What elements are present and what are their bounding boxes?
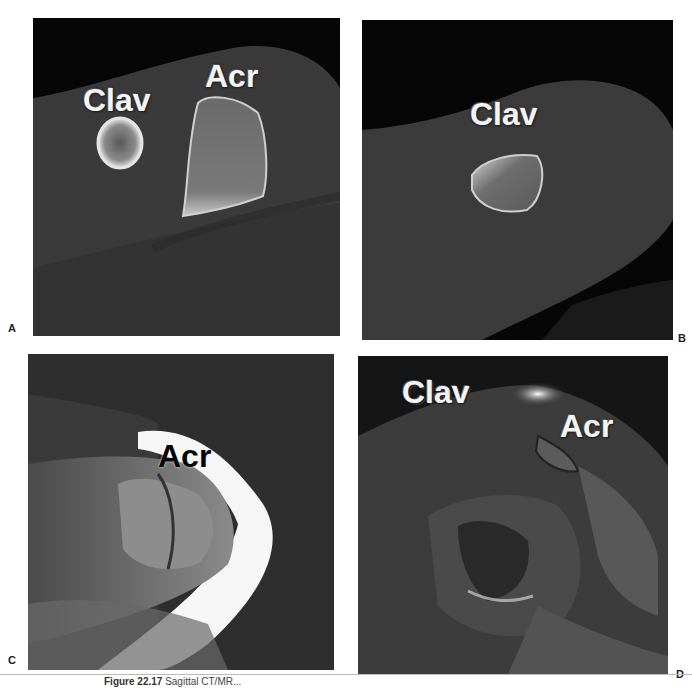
caption-text: Sagittal CT/MR... — [165, 676, 241, 687]
label-acr: Acr — [560, 408, 613, 445]
panel-letter-c: C — [8, 654, 16, 666]
ct-sagittal-image — [33, 18, 340, 336]
label-clav: Clav — [83, 82, 151, 119]
label-clav: Clav — [470, 96, 538, 133]
caption-label: Figure 22.17 — [104, 676, 162, 687]
panel-letter-b: B — [678, 332, 686, 344]
label-acr: Acr — [158, 438, 211, 475]
label-clav: Clav — [402, 374, 470, 411]
ct-sagittal-image — [362, 20, 673, 340]
page-rule — [0, 674, 692, 675]
panel-a-ct-image: Clav Acr — [33, 18, 340, 336]
panel-letter-a: A — [8, 322, 16, 334]
panel-c-mr-image: Acr — [28, 354, 334, 670]
panel-d-mr-image: Clav Acr — [358, 356, 668, 674]
label-acr: Acr — [205, 58, 258, 95]
panel-b-ct-image: Clav — [362, 20, 673, 340]
mr-sagittal-image — [28, 354, 334, 670]
figure-caption: Figure 22.17 Sagittal CT/MR... — [104, 676, 241, 687]
